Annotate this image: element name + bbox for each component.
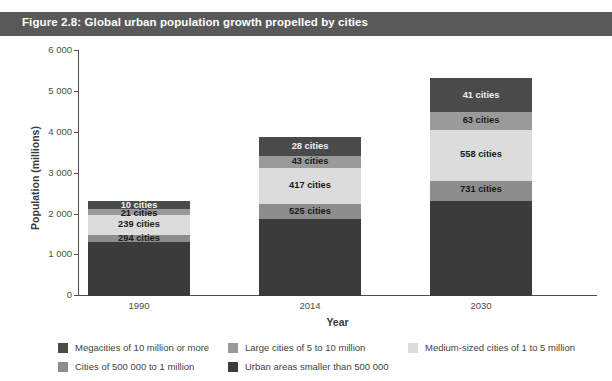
bar-1990-label-large: 21 cities [88,209,190,218]
y-tick-mark-2000 [74,214,78,215]
bar-2030-segment-urban [430,201,532,296]
bar-2030-label-medium: 558 cities [430,150,532,159]
bar-1990[interactable]: 10 cities 21 cities 239 cities 294 citie… [88,201,190,295]
chart-plot-area: Population (millions) Year 6 000 5 000 4… [0,0,612,381]
y-tick-label-2000: 2 000 [28,208,72,219]
bar-1990-label-medium: 239 cities [88,220,190,229]
chart-legend: Megacities of 10 million or more Large c… [0,338,612,378]
legend-swatch-small-icon [58,362,68,372]
x-tick-label-2014: 2014 [250,300,370,311]
legend-label-medium: Medium-sized cities of 1 to 5 million [425,342,575,353]
legend-swatch-large-icon [228,343,238,353]
bar-1990-segment-urban [88,242,190,296]
legend-item-megacities[interactable]: Megacities of 10 million or more [58,342,209,353]
y-tick-label-5000: 5 000 [28,85,72,96]
y-tick-label-0: 0 [28,289,72,300]
bar-2014-label-large: 43 cities [259,157,361,166]
y-tick-mark-6000 [74,50,78,51]
bar-2014-label-small: 525 cities [259,207,361,216]
bar-2014-segment-urban [259,219,361,296]
x-tick-label-1990: 1990 [79,300,199,311]
bar-2030[interactable]: 41 cities 63 cities 558 cities 731 citie… [430,78,532,295]
figure-container: Figure 2.8: Global urban population grow… [0,0,612,381]
legend-swatch-urban-icon [228,362,238,372]
legend-label-small: Cities of 500 000 to 1 million [75,361,194,372]
legend-item-medium[interactable]: Medium-sized cities of 1 to 5 million [408,342,575,353]
y-tick-mark-1000 [74,254,78,255]
x-tick-label-2030: 2030 [421,300,541,311]
y-tick-label-1000: 1 000 [28,248,72,259]
y-axis-line [78,50,79,296]
y-tick-label-6000: 6 000 [28,44,72,55]
legend-label-urban: Urban areas smaller than 500 000 [245,361,389,372]
legend-item-urban[interactable]: Urban areas smaller than 500 000 [228,361,389,372]
y-tick-label-4000: 4 000 [28,126,72,137]
bar-2014-label-megacities: 28 cities [259,142,361,151]
y-tick-label-3000: 3 000 [28,167,72,178]
bar-2014[interactable]: 28 cities 43 cities 417 cities 525 citie… [259,137,361,295]
x-axis-title: Year [78,316,597,328]
bar-2030-label-megacities: 41 cities [430,91,532,100]
y-tick-mark-0 [74,295,78,296]
legend-item-small[interactable]: Cities of 500 000 to 1 million [58,361,194,372]
legend-label-large: Large cities of 5 to 10 million [245,342,365,353]
y-tick-mark-3000 [74,173,78,174]
legend-swatch-megacities-icon [58,343,68,353]
y-tick-mark-5000 [74,91,78,92]
bar-2030-label-large: 63 cities [430,116,532,125]
bar-2030-label-small: 731 cities [430,185,532,194]
legend-swatch-medium-icon [408,343,418,353]
legend-item-large[interactable]: Large cities of 5 to 10 million [228,342,365,353]
bar-2014-label-medium: 417 cities [259,181,361,190]
legend-label-megacities: Megacities of 10 million or more [75,342,209,353]
bar-1990-label-small: 294 cities [88,234,190,243]
y-tick-mark-4000 [74,132,78,133]
